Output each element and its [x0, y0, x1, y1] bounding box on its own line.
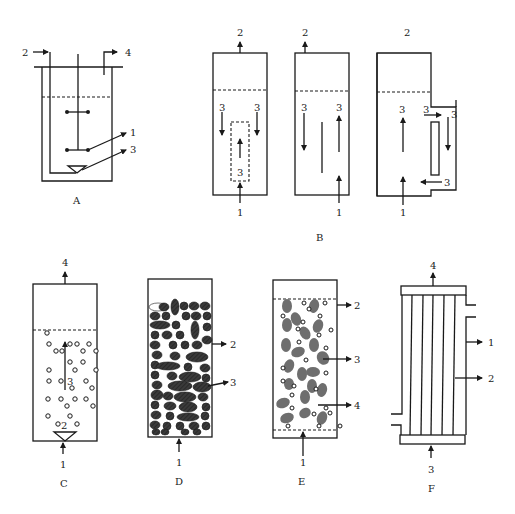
label-b2-3a: 3 [301, 102, 307, 113]
caption-a: A [72, 195, 81, 206]
label-b3-3a: 3 [399, 104, 405, 115]
label-b2-3b: 3 [336, 102, 342, 113]
label-b2-2: 2 [302, 27, 308, 38]
label-b1-3c: 3 [237, 167, 243, 178]
label-d-3: 3 [230, 377, 236, 388]
caption-d: D [175, 476, 183, 487]
label-b3-3b: 3 [423, 104, 429, 115]
label-a-3: 3 [130, 144, 136, 155]
panel-a: 2 4 1 3 A [22, 47, 136, 206]
bioreactor-diagram: 2 4 1 3 A 2 3 3 3 1 2 3 3 1 [0, 0, 515, 514]
label-e-1: 1 [300, 457, 306, 468]
panel-d: 2 3 1 D [148, 279, 236, 487]
label-b1-3a: 3 [219, 102, 225, 113]
label-d-2: 2 [230, 339, 236, 350]
label-f-2: 2 [488, 373, 494, 384]
panel-c: 4 1 3 2 C [33, 257, 98, 489]
caption-f: F [428, 483, 435, 494]
label-b3-3d: 3 [444, 177, 450, 188]
label-e-3: 3 [354, 354, 360, 365]
label-c-2: 2 [61, 420, 67, 431]
panel-e: 2 3 4 1 E [273, 280, 360, 487]
label-e-2: 2 [354, 300, 360, 311]
label-b3-3c: 3 [451, 109, 457, 120]
label-e-4: 4 [354, 400, 360, 411]
caption-e: E [298, 476, 305, 487]
label-f-4: 4 [430, 260, 436, 271]
label-c-4: 4 [62, 257, 68, 268]
label-a-4: 4 [125, 47, 131, 58]
label-a-1: 1 [130, 127, 136, 138]
label-d-1: 1 [176, 457, 182, 468]
label-b3-2: 2 [404, 27, 410, 38]
caption-b: B [316, 232, 323, 243]
label-b3-1: 1 [400, 207, 406, 218]
label-f-1: 1 [488, 337, 494, 348]
label-b1-1: 1 [237, 207, 243, 218]
panel-f: 4 3 1 2 F [391, 260, 494, 494]
label-b2-1: 1 [336, 207, 342, 218]
panel-b: 2 3 3 3 1 2 3 3 1 2 3 3 3 [213, 27, 457, 243]
label-a-2: 2 [22, 47, 28, 58]
caption-c: C [60, 478, 68, 489]
label-b1-3b: 3 [254, 102, 260, 113]
label-b1-2: 2 [237, 27, 243, 38]
label-c-1: 1 [60, 459, 66, 470]
label-f-3: 3 [428, 464, 434, 475]
packing-particles [149, 299, 212, 435]
